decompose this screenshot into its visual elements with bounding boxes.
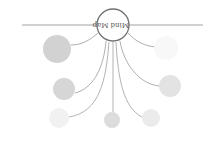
center-node-label: Mind Map [97, 19, 129, 31]
node-left-top[interactable] [43, 35, 71, 63]
node-left-bottom[interactable] [49, 108, 69, 128]
connector-line [75, 41, 106, 93]
connector-line [120, 41, 159, 86]
node-right-mid[interactable] [159, 75, 181, 97]
node-group [43, 35, 181, 128]
connector-group [69, 33, 159, 117]
connector-line [71, 33, 98, 45]
node-right-bottom[interactable] [142, 109, 160, 127]
connector-line [128, 33, 156, 47]
node-right-top[interactable] [154, 36, 178, 60]
connector-line [116, 42, 142, 117]
node-bottom-center[interactable] [104, 112, 120, 128]
connector-line [69, 42, 109, 117]
node-left-mid[interactable] [53, 78, 75, 100]
